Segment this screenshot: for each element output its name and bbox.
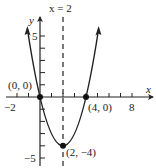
x-tick-label-8: 8 [129, 101, 135, 113]
parabola-graph: x = 2 y x 5 −5 −2 8 (0, 0) (4, 0) (2, −4… [0, 0, 156, 168]
y-tick-label-neg5: −5 [24, 152, 36, 164]
y-tick-label-5: 5 [32, 30, 38, 42]
point-label-root: (4, 0) [88, 101, 112, 114]
y-axis-label: y [28, 14, 34, 26]
point-label-origin: (0, 0) [8, 79, 32, 92]
point-root-4 [83, 94, 89, 100]
symmetry-label: x = 2 [49, 2, 72, 14]
x-axis-label: x [145, 83, 151, 95]
point-label-vertex: (2, −4) [66, 146, 96, 159]
x-tick-label-neg2: −2 [4, 101, 16, 113]
point-origin [37, 94, 43, 100]
